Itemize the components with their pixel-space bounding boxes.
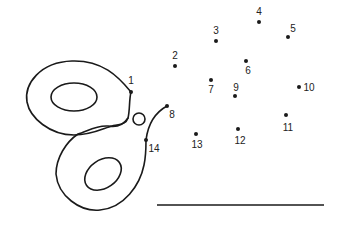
dot-number-label: 11 — [283, 122, 294, 133]
butterfly-head — [133, 113, 145, 125]
dot-8: 8 — [165, 104, 175, 120]
numbered-dots: 1234567891011121314 — [128, 6, 315, 154]
dot-marker — [236, 127, 240, 131]
dot-marker — [209, 78, 213, 82]
dot-number-label: 12 — [234, 135, 246, 146]
dot-number-label: 10 — [303, 82, 315, 93]
lower-wing-spot — [79, 151, 128, 197]
dot-number-label: 5 — [290, 23, 296, 34]
dot-2: 2 — [172, 50, 178, 68]
dot-marker — [194, 132, 198, 136]
dot-3: 3 — [213, 25, 219, 43]
dot-marker — [257, 20, 261, 24]
dot-marker — [297, 85, 301, 89]
dot-marker — [233, 94, 237, 98]
dot-9: 9 — [233, 82, 239, 98]
dot-marker — [165, 104, 169, 108]
dot-marker — [244, 59, 248, 63]
dot-marker — [173, 64, 177, 68]
dot-4: 4 — [256, 6, 262, 24]
dot-marker — [129, 90, 133, 94]
dot-number-label: 2 — [172, 50, 178, 61]
dot-1: 1 — [128, 75, 134, 94]
dot-marker — [284, 113, 288, 117]
butterfly-outline — [27, 61, 167, 210]
dot-marker — [286, 35, 290, 39]
dot-6: 6 — [244, 59, 251, 76]
upper-wing-outline — [27, 61, 131, 135]
dot-number-label: 9 — [233, 82, 239, 93]
dot-12: 12 — [234, 127, 246, 146]
dot-number-label: 6 — [245, 65, 251, 76]
upper-wing-spot — [51, 83, 97, 111]
dot-number-label: 14 — [148, 143, 160, 154]
dot-marker — [144, 138, 148, 142]
dot-number-label: 13 — [191, 139, 203, 150]
dot-to-dot-worksheet: 1234567891011121314 — [0, 0, 338, 226]
dot-number-label: 8 — [169, 109, 175, 120]
dot-number-label: 7 — [208, 84, 214, 95]
dot-7: 7 — [208, 78, 214, 95]
dot-number-label: 3 — [213, 25, 219, 36]
dot-number-label: 1 — [128, 75, 134, 86]
dot-13: 13 — [191, 132, 203, 150]
dot-11: 11 — [283, 113, 294, 133]
dot-10: 10 — [297, 82, 315, 93]
dot-5: 5 — [286, 23, 296, 39]
dot-marker — [214, 39, 218, 43]
dot-number-label: 4 — [256, 6, 262, 17]
